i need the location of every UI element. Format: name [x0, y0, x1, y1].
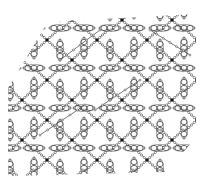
metal-center-icon	[170, 18, 174, 22]
metal-center-icon	[195, 0, 199, 2]
metal-center-icon	[195, 118, 199, 122]
metal-center-icon	[70, 58, 74, 62]
metal-center-icon	[45, 118, 49, 122]
metal-center-icon	[120, 18, 124, 22]
crystal-packing-figure	[0, 0, 206, 181]
metal-center-icon	[195, 38, 199, 42]
metal-center-icon	[145, 78, 149, 82]
metal-center-icon	[45, 38, 49, 42]
metal-center-icon	[70, 18, 74, 22]
metal-center-icon	[70, 178, 74, 181]
metal-center-icon	[20, 178, 24, 181]
metal-center-icon	[45, 0, 49, 2]
metal-center-icon	[195, 158, 199, 162]
metal-center-icon	[145, 118, 149, 122]
metal-center-icon	[95, 78, 99, 82]
metal-center-icon	[20, 98, 24, 102]
metal-center-icon	[170, 98, 174, 102]
metal-center-icon	[195, 78, 199, 82]
metal-center-icon	[120, 58, 124, 62]
metal-center-icon	[95, 118, 99, 122]
metal-center-icon	[70, 98, 74, 102]
metal-center-icon	[145, 38, 149, 42]
packing-diagram	[0, 0, 206, 181]
metal-center-icon	[20, 18, 24, 22]
metal-center-icon	[170, 178, 174, 181]
metal-center-icon	[145, 158, 149, 162]
metal-center-icon	[120, 138, 124, 142]
metal-center-icon	[145, 0, 149, 2]
metal-center-icon	[95, 38, 99, 42]
metal-center-icon	[95, 0, 99, 2]
metal-center-icon	[170, 138, 174, 142]
metal-center-icon	[45, 78, 49, 82]
metal-center-icon	[20, 138, 24, 142]
metal-center-icon	[45, 158, 49, 162]
molecule-layer	[0, 0, 206, 181]
metal-center-icon	[70, 138, 74, 142]
metal-center-icon	[20, 58, 24, 62]
metal-center-icon	[120, 178, 124, 181]
metal-center-icon	[95, 158, 99, 162]
metal-center-icon	[120, 98, 124, 102]
metal-center-icon	[170, 58, 174, 62]
